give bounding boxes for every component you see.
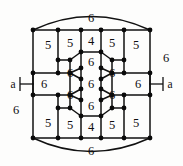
edge-identification-tag-tag-left: a (10, 78, 15, 90)
planar-graph-figure: 66664455555555666666666 aa (0, 0, 183, 166)
face-label-layer: 66664455555555666666666 (13, 11, 169, 158)
face-size-label-hex-center: 6 (88, 77, 94, 91)
face-size-label-square-bottom: 4 (88, 120, 95, 134)
face-size-label-hex-south: 6 (88, 99, 94, 113)
face-size-label-hex-far-left: 6 (41, 77, 47, 91)
graph-vertex (148, 136, 153, 141)
graph-vertex (79, 114, 84, 119)
graph-vertex (99, 77, 104, 82)
face-size-label-outer-left: 6 (13, 103, 19, 117)
edge-identification-tag-tag-right: a (167, 78, 172, 90)
face-size-label-pent-top-far-right: 5 (133, 38, 139, 52)
graph-vertex (99, 87, 104, 92)
graph-vertex (99, 50, 104, 55)
face-size-label-hex-sw: 6 (67, 88, 73, 102)
graph-vertex (122, 28, 127, 33)
face-size-label-pent-top-far-left: 5 (45, 38, 51, 52)
face-size-label-pent-bot-far-left: 5 (45, 116, 51, 130)
graph-vertex (56, 136, 61, 141)
face-size-label-outer-top: 6 (88, 11, 94, 25)
graph-vertex (31, 71, 36, 76)
graph-vertex (68, 58, 73, 63)
graph-vertex (99, 98, 104, 103)
graph-vertex (79, 77, 84, 82)
graph-vertex (79, 98, 84, 103)
graph-vertex (31, 28, 36, 33)
graph-vertex (79, 28, 84, 33)
graph-vertex (99, 114, 104, 119)
face-size-label-pent-bot-left: 5 (67, 118, 73, 132)
diagram-container: 66664455555555666666666 aa (0, 0, 183, 166)
graph-vertex (122, 93, 127, 98)
edge-marker-left (20, 73, 33, 95)
graph-vertex (56, 106, 61, 111)
graph-vertex (56, 28, 61, 33)
face-size-label-pent-top-left: 5 (67, 36, 73, 50)
face-size-label-hex-north: 6 (88, 55, 94, 69)
graph-vertex (122, 71, 127, 76)
edge-marker-right (150, 73, 163, 95)
graph-vertex (99, 66, 104, 71)
graph-vertex (56, 93, 61, 98)
graph-vertex (148, 71, 153, 76)
face-size-label-pent-bot-right: 5 (109, 118, 115, 132)
face-size-label-outer-right: 6 (163, 51, 169, 65)
face-size-label-pent-bot-far-right: 5 (133, 116, 139, 130)
graph-vertex (148, 28, 153, 33)
graph-vertex (31, 93, 36, 98)
face-size-label-hex-ne: 6 (109, 66, 115, 80)
graph-vertex (79, 50, 84, 55)
face-size-label-pent-top-right: 5 (109, 36, 115, 50)
face-size-label-outer-bottom: 6 (88, 144, 94, 158)
graph-vertex (79, 66, 84, 71)
graph-vertex (56, 71, 61, 76)
graph-vertex (122, 106, 127, 111)
graph-vertex (99, 28, 104, 33)
graph-vertex (68, 106, 73, 111)
graph-vertex (110, 58, 115, 63)
graph-vertex (56, 58, 61, 63)
graph-vertex (110, 106, 115, 111)
graph-vertex (122, 58, 127, 63)
face-size-label-square-top: 4 (88, 34, 95, 48)
graph-vertex (79, 136, 84, 141)
graph-vertex (31, 136, 36, 141)
face-size-label-hex-se: 6 (109, 88, 115, 102)
graph-vertex (122, 136, 127, 141)
graph-vertex (148, 93, 153, 98)
graph-vertex (99, 136, 104, 141)
face-size-label-hex-far-right: 6 (135, 77, 141, 91)
graph-vertex (79, 87, 84, 92)
face-size-label-hex-nw: 6 (67, 66, 73, 80)
